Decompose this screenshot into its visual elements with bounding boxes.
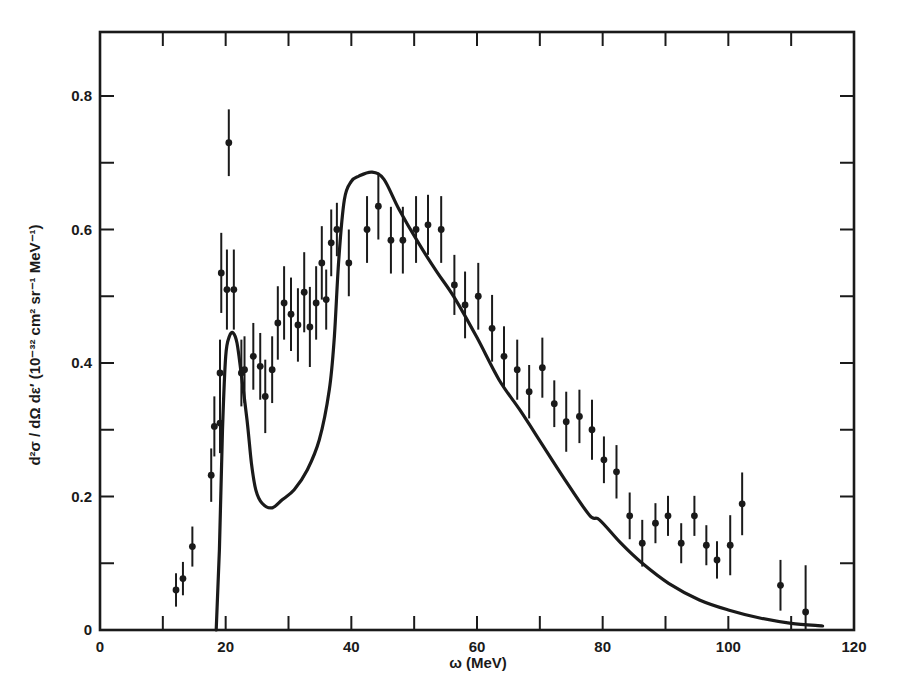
x-tick-label: 0 xyxy=(96,638,104,655)
data-marker xyxy=(489,325,496,332)
data-point xyxy=(703,525,710,565)
data-marker xyxy=(230,286,237,293)
data-point xyxy=(539,338,546,398)
data-marker xyxy=(802,609,809,616)
data-marker xyxy=(306,324,313,331)
data-point xyxy=(211,396,218,456)
data-point xyxy=(451,255,458,315)
data-point xyxy=(739,472,746,535)
data-marker xyxy=(217,420,224,427)
data-marker xyxy=(514,366,521,373)
data-point xyxy=(224,250,231,330)
data-point xyxy=(388,207,395,274)
data-marker xyxy=(318,259,325,266)
data-point xyxy=(551,380,558,427)
data-marker xyxy=(714,557,721,564)
data-marker xyxy=(589,426,596,433)
y-tick-label: 0.2 xyxy=(71,488,92,505)
data-marker xyxy=(262,393,269,400)
data-marker xyxy=(173,587,180,594)
data-point xyxy=(364,196,371,263)
data-point xyxy=(438,196,445,263)
data-marker xyxy=(652,520,659,527)
chart-container: 02040608010012000.20.40.60.8 ω (MeV) d²σ… xyxy=(0,0,904,700)
data-point xyxy=(218,233,225,313)
data-marker xyxy=(257,363,264,370)
y-axis-title: d²σ / dΩ dε′ (10⁻³² cm² sr⁻¹ MeV⁻¹) xyxy=(26,224,43,465)
data-marker xyxy=(501,353,508,360)
theory-curve xyxy=(216,172,822,630)
data-point xyxy=(601,436,608,483)
data-point xyxy=(180,562,187,595)
data-point xyxy=(563,392,570,452)
theory-curve-path xyxy=(216,172,822,630)
data-marker xyxy=(189,543,196,550)
cross-section-chart: 02040608010012000.20.40.60.8 ω (MeV) d²σ… xyxy=(0,0,904,700)
axis-ticks xyxy=(100,32,854,630)
data-point xyxy=(189,527,196,567)
data-marker xyxy=(301,289,308,296)
data-marker xyxy=(613,468,620,475)
data-point xyxy=(613,445,620,498)
data-marker xyxy=(399,237,406,244)
data-point xyxy=(413,196,420,263)
x-tick-label: 40 xyxy=(343,638,360,655)
data-marker xyxy=(313,300,320,307)
y-tick-label: 0.6 xyxy=(71,221,92,238)
data-point xyxy=(425,195,432,255)
data-marker xyxy=(328,239,335,246)
data-marker xyxy=(388,237,395,244)
data-point xyxy=(399,207,406,274)
data-marker xyxy=(691,512,698,519)
data-point xyxy=(475,263,482,330)
data-point xyxy=(281,266,288,339)
data-marker xyxy=(425,221,432,228)
data-point xyxy=(501,326,508,386)
data-point xyxy=(802,565,809,630)
data-point xyxy=(652,503,659,543)
data-point xyxy=(375,173,382,240)
data-point xyxy=(345,230,352,297)
data-marker xyxy=(703,542,710,549)
data-point xyxy=(691,496,698,536)
data-marker xyxy=(208,472,215,479)
data-marker xyxy=(269,366,276,373)
x-tick-label: 20 xyxy=(217,638,234,655)
y-tick-label: 0 xyxy=(84,621,92,638)
data-point xyxy=(678,523,685,563)
data-marker xyxy=(375,203,382,210)
data-marker xyxy=(211,423,218,430)
data-marker xyxy=(180,575,187,582)
data-marker xyxy=(539,364,546,371)
data-marker xyxy=(727,542,734,549)
data-point xyxy=(526,365,533,418)
data-marker xyxy=(451,282,458,289)
data-point xyxy=(274,286,281,359)
y-tick-label: 0.4 xyxy=(71,354,93,371)
data-marker xyxy=(462,302,469,309)
data-marker xyxy=(218,269,225,276)
data-points xyxy=(173,109,809,630)
tick-labels: 02040608010012000.20.40.60.8 xyxy=(71,87,866,655)
data-marker xyxy=(281,300,288,307)
data-marker xyxy=(563,418,570,425)
data-marker xyxy=(217,370,224,377)
data-point xyxy=(462,272,469,339)
data-marker xyxy=(678,540,685,547)
data-point xyxy=(295,288,302,361)
x-tick-label: 60 xyxy=(469,638,486,655)
data-point xyxy=(576,390,583,443)
x-tick-label: 80 xyxy=(594,638,611,655)
data-point xyxy=(288,278,295,351)
x-axis-title: ω (MeV) xyxy=(449,654,507,671)
data-marker xyxy=(295,322,302,329)
x-tick-label: 120 xyxy=(841,638,866,655)
data-marker xyxy=(576,413,583,420)
data-marker xyxy=(777,582,784,589)
data-marker xyxy=(345,259,352,266)
data-point xyxy=(306,287,313,367)
data-point xyxy=(626,492,633,539)
data-marker xyxy=(413,226,420,233)
data-point xyxy=(323,270,330,330)
data-point xyxy=(269,336,276,403)
